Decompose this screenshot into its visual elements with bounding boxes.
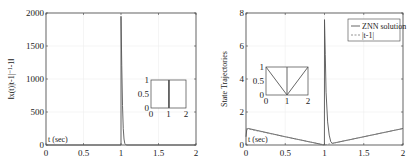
y-axis-label: ‖x(t)|t-1|⁻¹-1‖ [7,58,16,99]
time-annotation: t (sec) [48,135,68,144]
inset-plot: 01200.51 [253,62,311,106]
y-tick-label: 8 [240,8,245,18]
inset-y-tick-label: 0 [145,103,150,113]
inset-y-tick-label: 0.5 [253,76,265,86]
inset-y-tick-label: 1 [145,75,150,85]
residual-error-chart: 00.511.520500100015002000‖x(t)|t-1|⁻¹-1‖… [7,8,198,158]
inset-y-tick-label: 1 [260,62,265,72]
y-tick-label: 0 [40,140,45,150]
time-annotation: t (sec) [248,135,268,144]
x-tick-label: 1.5 [153,148,165,158]
figure-canvas: 00.511.520500100015002000‖x(t)|t-1|⁻¹-1‖… [0,0,417,165]
inset-x-tick-label: 2 [306,96,311,106]
inset-x-tick-label: 2 [184,109,189,119]
y-tick-label: 500 [31,107,45,117]
x-tick-label: 0.5 [280,148,292,158]
legend-label: ZNN solution [362,22,406,31]
y-tick-label: 2000 [26,8,45,18]
inset-x-tick-label: 1 [285,96,290,106]
x-tick-label: 2 [194,148,199,158]
y-tick-label: 1000 [26,74,45,84]
inset-plot: 01200.51 [138,75,189,119]
inset-x-tick-label: 0 [264,96,269,106]
y-tick-label: 0 [240,140,245,150]
inset-x-tick-label: 1 [166,109,171,119]
y-tick-label: 1500 [26,41,45,51]
y-tick-label: 4 [240,74,245,84]
x-tick-label: 0 [244,148,249,158]
x-tick-label: 1 [119,148,124,158]
legend-label: |t-1| [362,31,374,40]
state-trajectories-chart: 00.511.5202468State Trajectoriest (sec)0… [220,8,406,158]
inset-x-tick-label: 0 [149,109,154,119]
x-tick-label: 1 [322,148,327,158]
y-axis-label: State Trajectories [220,51,229,107]
inset-y-tick-label: 0 [260,90,265,100]
x-tick-label: 2 [401,148,406,158]
x-tick-label: 0 [44,148,49,158]
legend: ZNN solution|t-1| [348,19,406,41]
inset-y-tick-label: 0.5 [138,89,150,99]
y-tick-label: 2 [240,107,245,117]
x-tick-label: 0.5 [78,148,90,158]
y-tick-label: 6 [240,41,245,51]
x-tick-label: 1.5 [358,148,370,158]
